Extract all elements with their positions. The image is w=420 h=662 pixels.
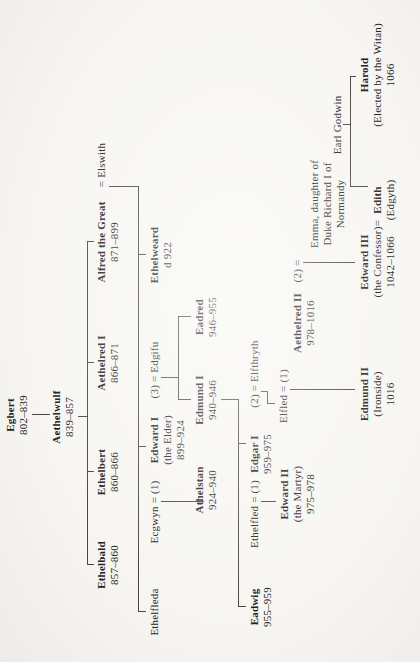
person-edward-2: Edward II(the Martyr)975–978 bbox=[278, 466, 317, 522]
person-edmund-2: Edmund II(Ironside)1016 bbox=[358, 367, 397, 421]
person-detail: 857–860 bbox=[108, 541, 121, 589]
person-emma-equals: (2) = bbox=[291, 260, 304, 283]
connector-line bbox=[290, 389, 355, 390]
person-detail: 940–946 bbox=[206, 375, 219, 425]
person-athelstan: Athelstan924–940 bbox=[193, 466, 219, 513]
person-ethelbert: Ethelbert860–866 bbox=[95, 449, 121, 495]
person-name: Eadwig bbox=[248, 587, 261, 627]
person-name: Egbert bbox=[4, 395, 17, 435]
person-harold: Harold(Elected by the Witan)1066 bbox=[358, 23, 397, 127]
person-detail: 955–959 bbox=[261, 587, 274, 627]
person-detail: (2) = bbox=[291, 260, 304, 283]
connector-line bbox=[221, 399, 238, 400]
person-detail: 1042–1066 bbox=[384, 226, 397, 297]
connector-line bbox=[178, 316, 179, 400]
connector-line bbox=[161, 501, 204, 502]
person-detail: 978–1016 bbox=[304, 293, 317, 353]
person-detail: (the Confessor) bbox=[371, 226, 384, 297]
person-detail: (Edgyth) bbox=[384, 180, 397, 221]
person-detail: (the Elder) bbox=[161, 415, 174, 465]
connector-line bbox=[138, 254, 146, 255]
person-detail: Ethelfled = (1) bbox=[248, 480, 261, 548]
person-detail: Normandy bbox=[334, 160, 347, 248]
person-detail: Emma, daughter of bbox=[308, 160, 321, 248]
person-ethelbald: Ethelbald857–860 bbox=[95, 541, 121, 589]
person-name: Ethelbald bbox=[95, 541, 108, 589]
person-name: Aethelred II bbox=[291, 293, 304, 353]
person-detail: Earl Godwin bbox=[331, 96, 344, 155]
person-eadwig: Eadwig955–959 bbox=[248, 587, 274, 627]
person-edith-equals: = bbox=[371, 220, 384, 226]
connector-line bbox=[238, 606, 246, 607]
person-aethelred-1: Aethelred I866–871 bbox=[95, 335, 121, 390]
person-edgifu: (3) = Edgifu bbox=[148, 342, 161, 399]
person-detail: 924–940 bbox=[206, 466, 219, 513]
person-name: Edmund I bbox=[193, 375, 206, 425]
person-detail: 946–955 bbox=[206, 297, 219, 337]
person-aethelred-2: Aethelred II978–1016 bbox=[291, 293, 317, 353]
person-edith: Edith(Edgyth) bbox=[371, 180, 397, 221]
connector-line bbox=[267, 403, 275, 404]
person-name: Ethelweard bbox=[148, 227, 161, 283]
person-detail: = bbox=[371, 220, 384, 226]
person-detail: (2) = Elfthryth bbox=[248, 340, 261, 407]
person-detail: (Elected by the Witan) bbox=[371, 23, 384, 127]
connector-line bbox=[350, 76, 351, 187]
person-alfred: Alfred the Great871–899 bbox=[95, 202, 121, 283]
person-detail: 802–839 bbox=[17, 395, 30, 435]
person-detail: 1066 bbox=[384, 23, 397, 127]
connector-line bbox=[238, 443, 246, 444]
person-edmund-1: Edmund I940–946 bbox=[193, 375, 219, 425]
person-earl-godwin: Earl Godwin bbox=[331, 96, 344, 155]
person-detail: Elfled = (1) bbox=[277, 369, 290, 423]
person-aethelwulf: Aethelwulf839–857 bbox=[50, 390, 76, 443]
connector-line bbox=[343, 124, 350, 125]
connector-line bbox=[178, 316, 191, 317]
connector-line bbox=[87, 241, 88, 565]
person-detail: Ecgwyn = (1) bbox=[148, 481, 161, 544]
person-egbert: Egbert802–839 bbox=[4, 395, 30, 435]
connector-line bbox=[350, 76, 356, 77]
person-emma: Emma, daughter ofDuke Richard I ofNorman… bbox=[308, 160, 347, 248]
person-edward-1: Edward I(the Elder)899–924 bbox=[148, 415, 187, 465]
family-tree-diagram: Egbert802–839Aethelwulf839–857Ethelbald8… bbox=[0, 0, 420, 662]
connector-line bbox=[87, 362, 94, 363]
person-name: Edith bbox=[371, 180, 384, 221]
person-elswith: = Elswith bbox=[95, 143, 108, 187]
connector-line bbox=[138, 446, 146, 447]
connector-line bbox=[138, 611, 146, 612]
person-detail: (Ironside) bbox=[371, 367, 384, 421]
person-name: Ethelbert bbox=[95, 449, 108, 495]
person-detail: Duke Richard I of bbox=[321, 160, 334, 248]
connector-line bbox=[138, 186, 139, 612]
person-name: Edmund II bbox=[358, 367, 371, 421]
person-detail: 1016 bbox=[384, 367, 397, 421]
person-detail: (3) = Edgifu bbox=[148, 342, 161, 399]
connector-line bbox=[261, 501, 276, 502]
connector-line bbox=[238, 399, 239, 607]
person-ecgwyn: Ecgwyn = (1) bbox=[148, 481, 161, 544]
person-detail: 871–899 bbox=[108, 202, 121, 283]
person-name: Athelstan bbox=[193, 466, 206, 513]
person-detail: (the Martyr) bbox=[291, 466, 304, 522]
person-ethelweard: Ethelweardd 922 bbox=[148, 227, 174, 283]
person-detail: 860–866 bbox=[108, 449, 121, 495]
connector-line bbox=[87, 564, 94, 565]
person-name: Aethelred I bbox=[95, 335, 108, 390]
person-edgar-1: Edgar I959–975 bbox=[248, 434, 274, 474]
person-detail: = Elswith bbox=[95, 143, 108, 187]
person-name: Edgar I bbox=[248, 434, 261, 474]
person-elfled: Elfled = (1) bbox=[277, 369, 290, 423]
person-detail: 839–857 bbox=[63, 390, 76, 443]
connector-line bbox=[178, 399, 191, 400]
person-name: Edward II bbox=[278, 466, 291, 522]
person-detail: d 922 bbox=[161, 227, 174, 283]
scanned-page: Egbert802–839Aethelwulf839–857Ethelbald8… bbox=[0, 0, 420, 662]
connector-line bbox=[87, 471, 94, 472]
person-name: Edward I bbox=[148, 415, 161, 465]
person-detail: Ethelfleda bbox=[148, 588, 161, 635]
connector-line bbox=[350, 186, 368, 187]
person-detail: 959–975 bbox=[261, 434, 274, 474]
person-detail: 975–978 bbox=[304, 466, 317, 522]
connector-line bbox=[78, 416, 87, 417]
